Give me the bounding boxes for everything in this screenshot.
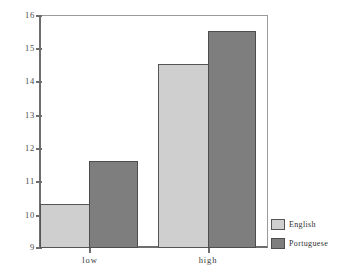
y-tick-label-10: 10 bbox=[9, 210, 35, 220]
y-tick-label-13: 13 bbox=[9, 110, 35, 120]
x-tick-label-low: low bbox=[64, 255, 116, 265]
y-tick-label-15: 15 bbox=[9, 43, 35, 53]
y-tick-14 bbox=[36, 81, 42, 83]
y-tick-label-14: 14 bbox=[9, 76, 35, 86]
y-tick-15 bbox=[36, 48, 42, 50]
y-tick-12 bbox=[36, 148, 42, 150]
y-tick-11 bbox=[36, 181, 42, 183]
y-tick-label-11: 11 bbox=[9, 176, 35, 186]
legend-item-english: English bbox=[271, 218, 316, 231]
legend-item-portuguese: Portuguese bbox=[271, 237, 328, 250]
legend-label-english: English bbox=[289, 220, 316, 229]
bar-chart: 16 15 14 13 12 11 10 9 low high English … bbox=[0, 0, 345, 279]
y-tick-label-12: 12 bbox=[9, 143, 35, 153]
bar-high-english bbox=[158, 64, 209, 248]
bar-low-english bbox=[40, 204, 90, 248]
legend-swatch-english-icon bbox=[271, 219, 285, 230]
bar-low-portuguese bbox=[89, 161, 138, 248]
legend-swatch-portuguese-icon bbox=[271, 238, 285, 249]
y-tick-label-9: 9 bbox=[9, 242, 35, 252]
y-tick-label-16: 16 bbox=[9, 10, 35, 20]
y-tick-16 bbox=[36, 15, 42, 17]
bar-high-portuguese bbox=[208, 31, 256, 248]
x-tick-high bbox=[208, 248, 210, 253]
legend-label-portuguese: Portuguese bbox=[289, 239, 328, 248]
x-tick-low bbox=[89, 248, 91, 253]
x-tick-label-high: high bbox=[182, 255, 234, 265]
y-tick-13 bbox=[36, 115, 42, 117]
